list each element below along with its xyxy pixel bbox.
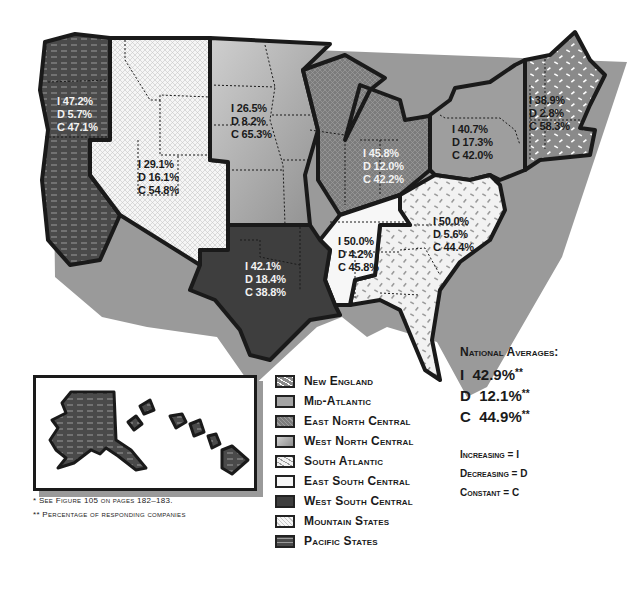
key-increasing: Increasing = I: [460, 445, 527, 464]
legend-label: Mountain States: [304, 514, 389, 528]
swatch-west-south-central: [275, 495, 295, 508]
label-mid-atlantic: I 40.7% D 17.3% C 42.0%: [452, 123, 493, 162]
swatch-new-england: [275, 375, 295, 388]
label-west-south-central: I 42.1% D 18.4% C 38.8%: [245, 260, 286, 299]
legend-item-east-south-central: East South Central: [275, 471, 414, 491]
hawaii-island-3: [170, 414, 186, 428]
legend-label: Mid-Atlantic: [304, 394, 371, 408]
label-mountain: I 29.1% D 16.1% C 54.8%: [138, 158, 179, 197]
legend-item-west-north-central: West North Central: [275, 431, 414, 451]
legend-item-mountain-states: Mountain States: [275, 511, 414, 531]
swatch-south-atlantic: [275, 455, 295, 468]
label-south-atlantic: I 50.0% D 5.6% C 44.4%: [433, 215, 474, 254]
swatch-mountain-states: [275, 515, 295, 528]
footnote-1: * See Figure 105 on pages 182–183.: [33, 494, 186, 508]
hawaii-island-6: [222, 446, 248, 474]
swatch-east-south-central: [275, 475, 295, 488]
hawaii-island-4: [190, 420, 204, 436]
national-averages: National Averages: I 42.9%** D 12.1%** C…: [460, 345, 558, 426]
national-decreasing: D 12.1%**: [460, 384, 558, 405]
label-new-england: I 38.9% D 2.8% C 58.3%: [529, 94, 570, 133]
legend: New England Mid-Atlantic East North Cent…: [275, 371, 414, 551]
legend-item-new-england: New England: [275, 371, 414, 391]
legend-label: Pacific States: [304, 534, 378, 548]
alaska-shape: [50, 392, 146, 470]
swatch-east-north-central: [275, 415, 295, 428]
national-averages-title: National Averages:: [460, 345, 558, 359]
legend-label: New England: [304, 374, 373, 388]
legend-label: East South Central: [304, 474, 410, 488]
legend-item-west-south-central: West South Central: [275, 491, 414, 511]
legend-label: East North Central: [304, 414, 411, 428]
legend-label: South Atlantic: [304, 454, 383, 468]
footnote-2: ** Percentage of responding companies: [33, 508, 186, 522]
inset-map: [36, 378, 254, 488]
hawaii-island-5: [208, 434, 220, 448]
label-east-north-central: I 45.8% D 12.0% C 42.2%: [363, 147, 404, 186]
footnotes: * See Figure 105 on pages 182–183. ** Pe…: [33, 494, 186, 522]
hawaii-island-1: [128, 416, 142, 430]
legend-item-south-atlantic: South Atlantic: [275, 451, 414, 471]
abbreviation-key: Increasing = I Decreasing = D Constant =…: [460, 445, 527, 502]
key-decreasing: Decreasing = D: [460, 464, 527, 483]
hawaii-island-2: [140, 400, 154, 414]
legend-item-mid-atlantic: Mid-Atlantic: [275, 391, 414, 411]
legend-label: West North Central: [304, 434, 414, 448]
swatch-west-north-central: [275, 435, 295, 448]
legend-label: West South Central: [304, 494, 413, 508]
alaska-hawaii-inset: [33, 375, 257, 491]
national-increasing: I 42.9%**: [460, 363, 558, 384]
key-constant: Constant = C: [460, 483, 527, 502]
legend-item-east-north-central: East North Central: [275, 411, 414, 431]
swatch-mid-atlantic: [275, 395, 295, 408]
national-constant: C 44.9%**: [460, 405, 558, 426]
legend-item-pacific-states: Pacific States: [275, 531, 414, 551]
label-west-north-central: I 26.5% D 8.2% C 65.3%: [231, 102, 272, 141]
label-pacific: I 47.2% D 5.7% C 47.1%: [57, 95, 98, 134]
label-east-south-central: I 50.0% D 4.2% C 45.8%: [338, 235, 379, 274]
swatch-pacific-states: [275, 535, 295, 548]
